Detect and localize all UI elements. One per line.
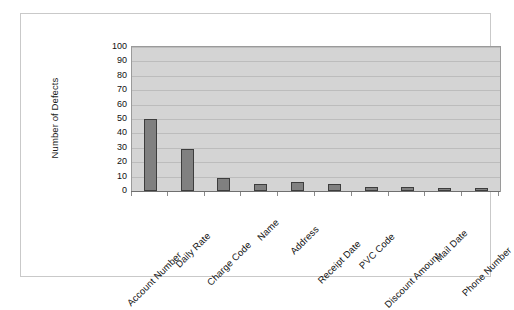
x-axis-tick (425, 192, 462, 196)
y-axis-tick-label: 100 (99, 42, 127, 51)
x-axis-category-label: Name (274, 197, 301, 224)
x-axis-category-label-text: Address (287, 223, 321, 257)
y-axis-tick-label: 10 (99, 171, 127, 180)
bar-slot (426, 47, 463, 191)
bar[interactable] (254, 184, 267, 191)
y-axis-tick-label: 60 (99, 99, 127, 108)
bar-slot (353, 47, 390, 191)
x-axis-category-label-text: Phone Number (459, 244, 514, 299)
bar-series (132, 47, 500, 191)
x-axis-tick (205, 192, 242, 196)
bar[interactable] (181, 149, 194, 191)
bar[interactable] (217, 178, 230, 191)
bar[interactable] (328, 184, 341, 191)
x-axis-category-label-text: Charge Code (205, 238, 254, 287)
x-axis-tick (241, 192, 278, 196)
x-axis-category-label-text: Name (255, 216, 282, 243)
x-axis-ticks (131, 192, 499, 196)
y-axis-tick-label: 90 (99, 56, 127, 65)
y-axis-tick-label: 70 (99, 85, 127, 94)
x-axis-tick (389, 192, 426, 196)
x-axis-category-labels: Account NumberDaily RateCharge CodeNameA… (131, 197, 499, 277)
x-axis-tick (462, 192, 499, 196)
y-axis-tick-labels: 1009080706050403020100 (99, 46, 127, 190)
y-axis-tick-label: 50 (99, 114, 127, 123)
x-axis-tick (278, 192, 315, 196)
chart-frame: Number of Defects 1009080706050403020100… (20, 13, 491, 277)
bar-slot (390, 47, 427, 191)
bar-slot (316, 47, 353, 191)
bar-slot (132, 47, 169, 191)
x-axis-category-label-text: Discount Amount (382, 250, 442, 310)
bar-slot (169, 47, 206, 191)
y-axis-tick-label: 20 (99, 157, 127, 166)
x-axis-tick (315, 192, 352, 196)
x-axis-category-label: Phone Number (506, 197, 514, 252)
bar-slot (279, 47, 316, 191)
x-axis-tick (352, 192, 389, 196)
y-axis-tick-label: 80 (99, 70, 127, 79)
x-axis-tick (168, 192, 205, 196)
y-axis-tick-label: 40 (99, 128, 127, 137)
bar-slot (206, 47, 243, 191)
y-axis-tick-label: 30 (99, 142, 127, 151)
y-axis-title: Number of Defects (47, 46, 61, 190)
bar[interactable] (144, 119, 157, 191)
y-axis-tick-label: 0 (99, 186, 127, 195)
bar-slot (463, 47, 500, 191)
plot-area (131, 46, 501, 192)
bar[interactable] (291, 182, 304, 191)
x-axis-category-label: Address (313, 197, 347, 231)
bar-slot (242, 47, 279, 191)
x-axis-tick (131, 192, 168, 196)
